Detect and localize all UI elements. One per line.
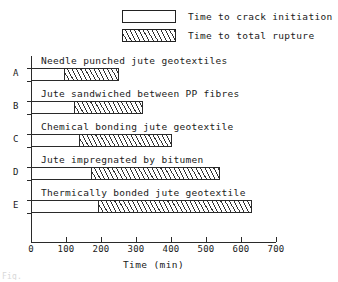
- bar-row-d: D Jute impregnated by bitumen: [0, 155, 338, 188]
- legend-label-total-rupture: Time to total rupture: [188, 29, 314, 42]
- bar-c-rupture-segment: [79, 134, 172, 147]
- x-tick-label-600: 600: [232, 245, 249, 254]
- bar-row-c: C Chemical bonding jute geotextile: [0, 122, 338, 155]
- row-label-e: E: [13, 201, 19, 210]
- row-caption-a: Needle punched jute geotextiles: [41, 56, 228, 66]
- bar-row-e: E Thermically bonded jute geotextile: [0, 188, 338, 221]
- bar-a-rupture-segment: [64, 68, 119, 81]
- bar-b-crack-segment: [31, 101, 75, 114]
- bar-b: [31, 101, 143, 114]
- y-tick-e-bottom: [27, 213, 32, 214]
- bar-e-rupture-segment: [98, 200, 252, 213]
- bar-row-b: B Jute sandwiched between PP fibres: [0, 89, 338, 122]
- y-tick-b-bottom: [27, 114, 32, 115]
- x-tick-label-400: 400: [162, 245, 179, 254]
- row-caption-b: Jute sandwiched between PP fibres: [41, 89, 240, 99]
- x-tick-200: [101, 237, 102, 242]
- legend-swatch-total-rupture: [122, 29, 176, 42]
- row-caption-d: Jute impregnated by bitumen: [41, 155, 204, 165]
- row-caption-c: Chemical bonding jute geotextile: [41, 122, 234, 132]
- y-tick-a-top: [27, 68, 32, 69]
- bar-a-crack-segment: [31, 68, 65, 81]
- x-axis-title: Time (min): [31, 259, 276, 270]
- x-tick-700: [276, 237, 277, 242]
- x-tick-label-500: 500: [197, 245, 214, 254]
- x-tick-label-300: 300: [127, 245, 144, 254]
- bar-b-rupture-segment: [74, 101, 143, 114]
- y-tick-d-bottom: [27, 180, 32, 181]
- bar-a: [31, 68, 119, 81]
- x-tick-400: [171, 237, 172, 242]
- y-tick-d-top: [27, 167, 32, 168]
- row-label-b: B: [13, 102, 19, 111]
- bar-d-crack-segment: [31, 167, 92, 180]
- plot-area: A Needle punched jute geotextiles B Jute…: [0, 56, 338, 252]
- x-tick-label-0: 0: [28, 245, 34, 254]
- caption-fragment: Fig.: [2, 272, 22, 280]
- y-tick-a-bottom: [27, 81, 32, 82]
- y-tick-b-top: [27, 101, 32, 102]
- x-tick-0: [31, 237, 32, 242]
- bar-e-crack-segment: [31, 200, 99, 213]
- bar-e: [31, 200, 252, 213]
- row-label-d: D: [13, 168, 19, 177]
- row-label-c: C: [13, 135, 19, 144]
- x-axis-line: [31, 242, 276, 243]
- bar-d: [31, 167, 220, 180]
- legend-item-crack-initiation: Time to crack initiation: [122, 7, 338, 26]
- y-tick-c-bottom: [27, 147, 32, 148]
- bar-d-rupture-segment: [91, 167, 220, 180]
- chart-legend: Time to crack initiation Time to total r…: [122, 7, 338, 45]
- x-tick-100: [66, 237, 67, 242]
- y-tick-c-top: [27, 134, 32, 135]
- bar-chart-figure: Time to crack initiation Time to total r…: [0, 0, 338, 282]
- bar-c-crack-segment: [31, 134, 80, 147]
- x-tick-label-200: 200: [92, 245, 109, 254]
- legend-label-crack-initiation: Time to crack initiation: [188, 10, 332, 23]
- x-tick-label-700: 700: [267, 245, 284, 254]
- row-caption-e: Thermically bonded jute geotextile: [41, 188, 246, 198]
- y-tick-e-top: [27, 200, 32, 201]
- legend-item-total-rupture: Time to total rupture: [122, 26, 338, 45]
- x-tick-600: [241, 237, 242, 242]
- x-tick-300: [136, 237, 137, 242]
- bar-row-a: A Needle punched jute geotextiles: [0, 56, 338, 89]
- x-tick-label-100: 100: [57, 245, 74, 254]
- row-label-a: A: [13, 69, 19, 78]
- legend-swatch-crack-initiation: [122, 10, 176, 23]
- x-tick-500: [206, 237, 207, 242]
- bar-c: [31, 134, 172, 147]
